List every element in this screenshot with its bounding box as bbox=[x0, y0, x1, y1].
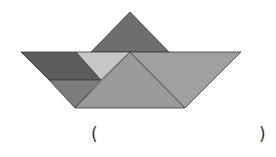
open-paren: ( bbox=[91, 124, 98, 144]
tangram-boat bbox=[0, 0, 276, 157]
close-paren: ) bbox=[259, 124, 266, 144]
top-triangle-piece bbox=[91, 12, 169, 52]
